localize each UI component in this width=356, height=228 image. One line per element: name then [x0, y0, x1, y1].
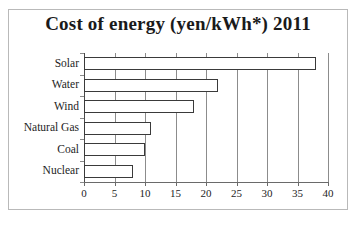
x-tick-25: [237, 182, 238, 186]
x-tick-15: [176, 182, 177, 186]
x-tick-5: [115, 182, 116, 186]
x-tick-label-5: 5: [102, 187, 128, 199]
x-tick-0: [84, 182, 85, 186]
category-label-coal: Coal: [10, 143, 79, 155]
x-tick-40: [328, 182, 329, 186]
x-tick-label-20: 20: [193, 187, 219, 199]
y-tick-4: [80, 139, 84, 140]
x-tick-30: [267, 182, 268, 186]
bar-row: [84, 161, 328, 183]
y-tick-end: [80, 182, 84, 183]
x-tick-label-30: 30: [254, 187, 280, 199]
y-tick-0: [80, 53, 84, 54]
chart-title: Cost of energy (yen/kWh*) 2011: [8, 13, 348, 35]
y-tick-2: [80, 96, 84, 97]
y-tick-5: [80, 161, 84, 162]
chart-figure: Cost of energy (yen/kWh*) 2011 051015202…: [0, 0, 356, 228]
bar-row: [84, 75, 328, 97]
bar-water: [84, 79, 218, 92]
x-tick-label-35: 35: [285, 187, 311, 199]
bar-wind: [84, 100, 194, 113]
bar-nuclear: [84, 165, 133, 178]
plot-area: [84, 53, 328, 182]
x-tick-label-25: 25: [224, 187, 250, 199]
x-tick-label-10: 10: [132, 187, 158, 199]
x-tick-label-40: 40: [315, 187, 341, 199]
category-label-wind: Wind: [10, 100, 79, 112]
bar-coal: [84, 143, 145, 156]
bar-solar: [84, 57, 316, 70]
x-tick-10: [145, 182, 146, 186]
bar-natural-gas: [84, 122, 151, 135]
bar-row: [84, 118, 328, 140]
x-tick-20: [206, 182, 207, 186]
category-label-nuclear: Nuclear: [10, 164, 79, 176]
y-tick-1: [80, 75, 84, 76]
y-tick-3: [80, 118, 84, 119]
bar-row: [84, 96, 328, 118]
category-label-natural-gas: Natural Gas: [10, 121, 79, 133]
bar-row: [84, 53, 328, 75]
x-tick-label-15: 15: [163, 187, 189, 199]
category-label-solar: Solar: [10, 57, 79, 69]
x-tick-label-0: 0: [71, 187, 97, 199]
category-label-water: Water: [10, 78, 79, 90]
x-tick-35: [298, 182, 299, 186]
bar-row: [84, 139, 328, 161]
gridline-x-40: [328, 53, 329, 182]
